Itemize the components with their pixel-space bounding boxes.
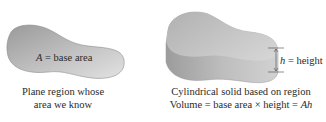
height-label: h = height [280,55,323,67]
plane-region-figure: A = base area Plane region whose area we… [0,0,160,122]
base-area-label: A = base area [36,52,92,64]
plane-region-caption: Plane region whose area we know [6,86,120,111]
caption-line-2: Volume = base area × height = Ah [156,99,326,112]
caption-line-1: Plane region whose [6,86,120,99]
caption-line-1: Cylindrical solid based on region [156,86,326,99]
caption-line-2: area we know [6,99,120,112]
cylindrical-solid-caption: Cylindrical solid based on region Volume… [156,86,326,111]
cylindrical-solid-figure: h = height Cylindrical solid based on re… [160,0,326,122]
